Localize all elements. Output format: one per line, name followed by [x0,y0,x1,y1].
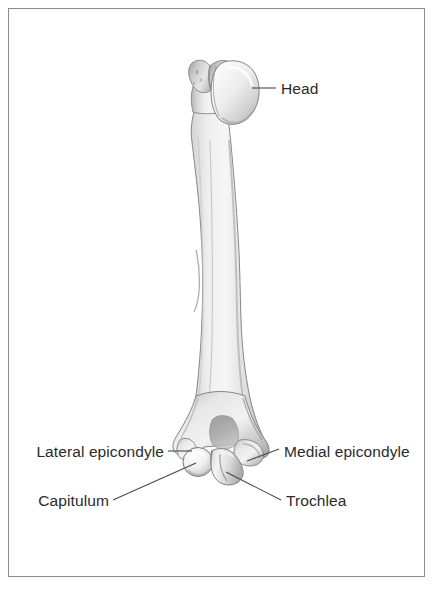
humerus-diagram: Head Lateral epicondyle Medial epicondyl… [0,0,434,591]
label-trochlea: Trochlea [286,492,347,509]
deltoid-tuberosity [194,250,199,312]
leader-line-capitulum [113,463,196,500]
label-head: Head [281,80,318,97]
coronoid-fossa [210,416,239,450]
label-capitulum: Capitulum [38,492,109,509]
leader-line-trochlea [226,472,281,500]
label-lateral-epicondyle: Lateral epicondyle [36,443,164,460]
humerus-bone-illustration [173,60,269,485]
label-medial-epicondyle: Medial epicondyle [284,443,410,460]
figure-root: Head Lateral epicondyle Medial epicondyl… [0,0,434,591]
